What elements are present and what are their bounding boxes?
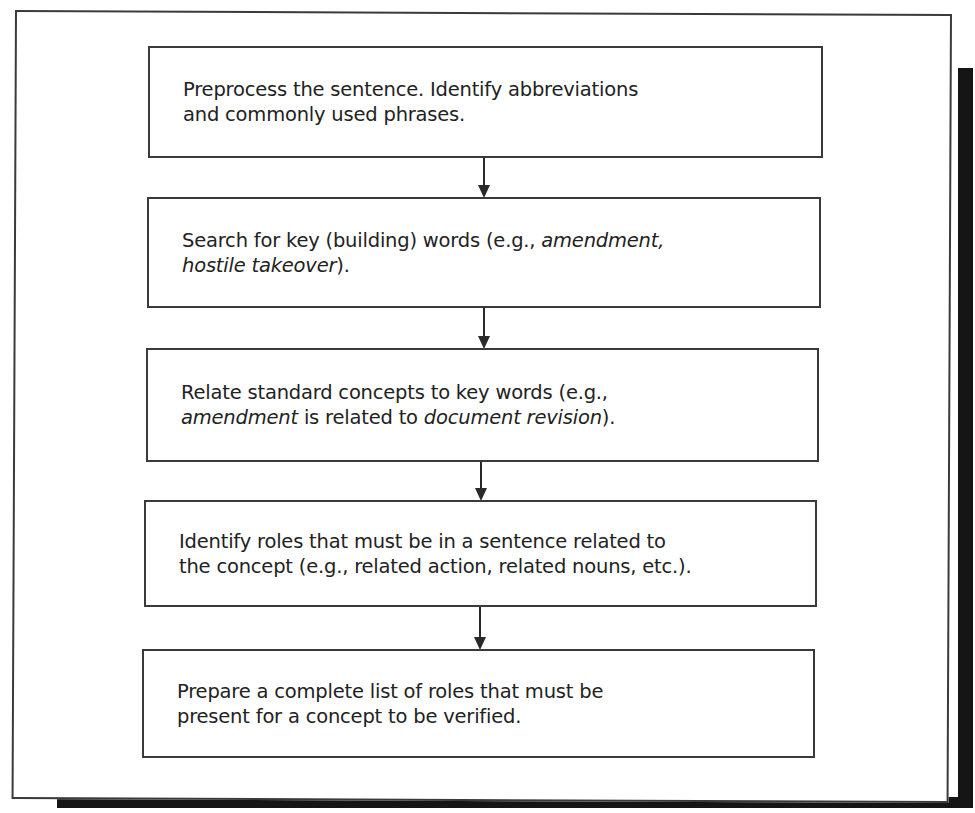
step-4-line-2: the concept (e.g., related action, relat… bbox=[179, 555, 691, 578]
arrow-down-icon bbox=[483, 308, 485, 347]
step-3-line-1: Relate standard concepts to key words (e… bbox=[181, 381, 608, 404]
flow-step-1-text: Preprocess the sentence. Identify abbrev… bbox=[183, 77, 638, 127]
flow-step-5-prepare-role-list: Prepare a complete list of roles that mu… bbox=[142, 649, 815, 758]
step-3-line-2-plain-b: is related to bbox=[298, 406, 424, 429]
flow-step-5-text: Prepare a complete list of roles that mu… bbox=[177, 679, 603, 729]
flow-step-4-text: Identify roles that must be in a sentenc… bbox=[179, 529, 691, 579]
step-5-line-1: Prepare a complete list of roles that mu… bbox=[177, 680, 603, 703]
step-2-line-2-plain: ). bbox=[336, 254, 349, 277]
step-2-line-1-italic: amendment, bbox=[541, 229, 664, 252]
flow-step-3-relate-concepts: Relate standard concepts to key words (e… bbox=[146, 348, 819, 462]
frame-shadow-right bbox=[958, 68, 973, 808]
flow-step-1-preprocess: Preprocess the sentence. Identify abbrev… bbox=[148, 46, 823, 158]
step-3-line-2-italic-c: document revision bbox=[424, 406, 602, 429]
flow-step-3-text: Relate standard concepts to key words (e… bbox=[181, 380, 615, 430]
step-1-line-1: Preprocess the sentence. Identify abbrev… bbox=[183, 78, 638, 101]
step-2-line-2-italic: hostile takeover bbox=[182, 254, 336, 277]
arrow-down-icon bbox=[483, 158, 485, 196]
flow-step-2-search-key-words: Search for key (building) words (e.g., a… bbox=[147, 197, 821, 308]
step-3-line-2-plain-d: ). bbox=[602, 406, 615, 429]
step-2-line-1-plain: Search for key (building) words (e.g., bbox=[182, 229, 541, 252]
arrow-down-icon bbox=[479, 607, 481, 648]
step-3-line-2-italic-a: amendment bbox=[181, 406, 298, 429]
step-1-line-2: and commonly used phrases. bbox=[183, 103, 465, 126]
flow-step-4-identify-roles: Identify roles that must be in a sentenc… bbox=[144, 500, 817, 607]
step-4-line-1: Identify roles that must be in a sentenc… bbox=[179, 530, 666, 553]
step-5-line-2: present for a concept to be verified. bbox=[177, 705, 521, 728]
flow-step-2-text: Search for key (building) words (e.g., a… bbox=[182, 228, 664, 278]
arrow-down-icon bbox=[480, 462, 482, 499]
